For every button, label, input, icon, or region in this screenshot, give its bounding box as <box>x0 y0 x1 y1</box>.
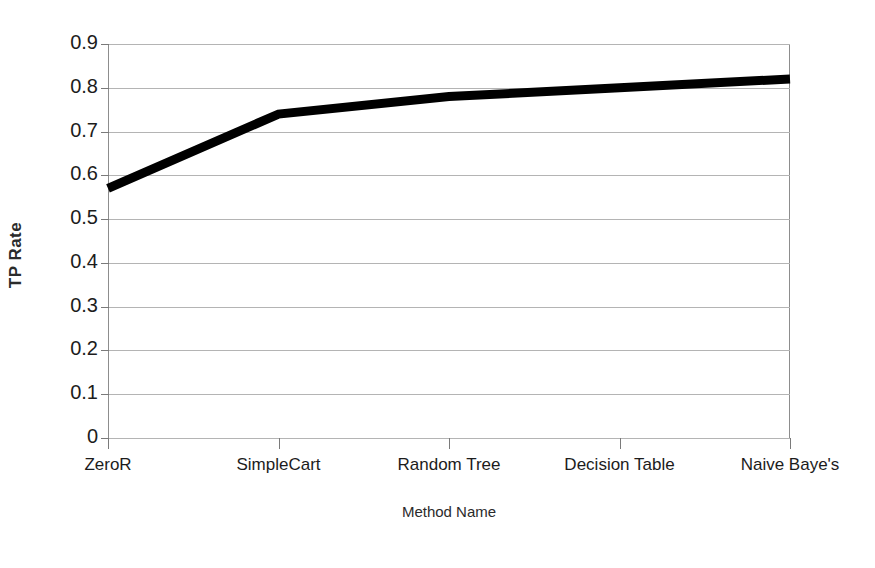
plot-area <box>108 44 790 438</box>
x-axis-tick-label: Naive Baye's <box>741 455 840 475</box>
x-axis-tick-label: Random Tree <box>398 455 501 475</box>
y-axis-tick-mark <box>101 438 109 439</box>
x-axis-tick-label: Decision Table <box>564 455 674 475</box>
y-axis-tick-label: 0.3 <box>34 294 98 317</box>
y-axis-tick-label: 0.9 <box>34 31 98 54</box>
y-axis-tick-mark <box>101 219 109 220</box>
x-axis-tick-mark <box>790 438 791 449</box>
y-axis-tick-mark <box>101 350 109 351</box>
y-axis-tick-mark <box>101 263 109 264</box>
y-axis-tick-mark <box>101 394 109 395</box>
x-axis-title: Method Name <box>108 503 790 520</box>
y-axis-tick-label: 0.2 <box>34 337 98 360</box>
y-axis-tick-label: 0 <box>34 425 98 448</box>
y-axis-tick-label: 0.7 <box>34 119 98 142</box>
x-axis-tick-mark <box>279 438 280 449</box>
y-axis-tick-mark <box>101 307 109 308</box>
y-axis-title: TP Rate <box>6 175 32 335</box>
y-axis-tick-mark <box>101 132 109 133</box>
y-axis-tick-labels: 0.90.80.70.60.50.40.30.20.10 <box>34 44 98 438</box>
y-axis-tick-label: 0.6 <box>34 162 98 185</box>
series-line-tp-rate <box>108 44 790 438</box>
chart-container: TP Rate 0.90.80.70.60.50.40.30.20.10 Zer… <box>0 0 875 568</box>
y-axis-tick-mark <box>101 44 109 45</box>
x-axis-tick-mark <box>620 438 621 449</box>
y-axis-tick-label: 0.5 <box>34 206 98 229</box>
y-axis-tick-mark <box>101 88 109 89</box>
tp-rate-polyline <box>108 79 790 188</box>
x-axis-tick-mark <box>449 438 450 449</box>
y-axis-tick-label: 0.8 <box>34 75 98 98</box>
x-axis-tick-label: SimpleCart <box>236 455 320 475</box>
x-axis-tick-mark <box>108 438 109 449</box>
x-axis-tick-label: ZeroR <box>84 455 131 475</box>
y-axis-tick-label: 0.4 <box>34 250 98 273</box>
y-axis-tick-mark <box>101 175 109 176</box>
y-axis-tick-label: 0.1 <box>34 381 98 404</box>
